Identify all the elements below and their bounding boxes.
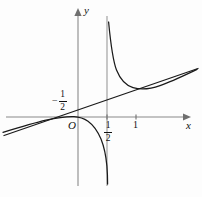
neg-one-half-fraction: 1 2 xyxy=(59,90,67,113)
half-numerator: 1 xyxy=(105,121,112,131)
graph-canvas xyxy=(0,0,202,197)
y-axis-arrow xyxy=(74,8,81,16)
x-axis-label: x xyxy=(186,120,191,131)
math-figure: y x O − 1 2 1 2 1 xyxy=(0,0,202,197)
y-axis-label: y xyxy=(84,5,89,16)
half-denominator: 2 xyxy=(105,134,112,144)
origin-label: O xyxy=(68,120,76,131)
curve-lower-branch xyxy=(3,117,108,184)
neg-one-half-label: − 1 2 xyxy=(52,90,67,113)
neg-half-numerator: 1 xyxy=(59,90,66,100)
minus-sign: − xyxy=(52,96,58,107)
one-half-tick-label: 1 2 xyxy=(104,121,112,144)
oblique-asymptote xyxy=(4,69,198,136)
neg-half-denominator: 2 xyxy=(59,103,66,113)
curve-upper-branch xyxy=(109,22,197,89)
x-axis-group xyxy=(6,113,191,120)
one-tick-label: 1 xyxy=(133,120,138,130)
y-axis-group xyxy=(74,8,81,186)
